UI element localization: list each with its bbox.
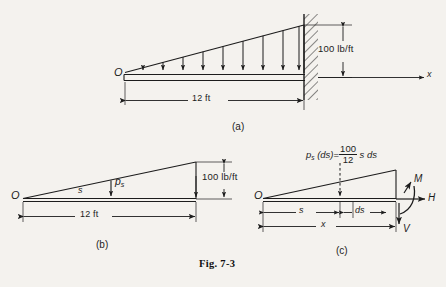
equation-fraction: 10012 — [339, 144, 357, 164]
load-equation-c: ps (ds)=10012 s ds — [306, 144, 377, 164]
reaction-arrows-c — [396, 182, 425, 224]
span-dimension-a — [125, 82, 304, 110]
origin-label-b: O — [11, 190, 20, 201]
panel-b — [23, 162, 232, 222]
distributed-load-triangle-a — [125, 25, 304, 73]
vertical-reaction-label: V — [403, 224, 410, 234]
panel-a — [124, 14, 424, 110]
span-dimension-b — [23, 202, 196, 222]
panel-caption-c: (c) — [336, 246, 348, 256]
intensity-label-b: 100 lb/ft — [202, 172, 238, 182]
beam-a — [124, 75, 305, 81]
fixed-support-wall — [304, 14, 318, 100]
distance-label-c: s — [299, 206, 304, 215]
x-axis-label-a: x — [427, 70, 432, 79]
moment-reaction-label: M — [414, 174, 422, 184]
panel-c — [263, 163, 425, 232]
equation-denominator: 12 — [339, 155, 357, 165]
figure-7-3-drawing — [0, 0, 446, 287]
figure-caption: Fig. 7-3 — [199, 258, 235, 269]
load-triangle-b — [23, 162, 196, 202]
equation-rhs-tail: s ds — [360, 149, 377, 160]
total-length-label-c: x — [321, 220, 326, 229]
panel-caption-a: (a) — [232, 122, 244, 132]
span-label-b: 12 ft — [80, 210, 99, 219]
x-dimension-c — [263, 202, 396, 232]
origin-label-c: O — [254, 190, 263, 201]
panel-caption-b: (b) — [96, 240, 108, 250]
ds-dimension-c — [344, 202, 386, 218]
intensity-symbol-b-sub: s — [121, 181, 125, 189]
distance-label-b: s — [78, 186, 83, 195]
span-label-a: 12 ft — [192, 94, 211, 103]
intensity-label-a: 100 lb/ft — [318, 44, 354, 54]
load-triangle-c — [263, 170, 396, 202]
equation-lhs-subscript: s — [311, 154, 314, 161]
element-label-c: ds — [355, 206, 365, 215]
intensity-symbol-b: ps — [115, 176, 124, 189]
origin-label-a: O — [114, 67, 123, 78]
horizontal-reaction-label: H — [428, 193, 435, 203]
equation-lhs-paren: (ds) — [317, 149, 333, 160]
